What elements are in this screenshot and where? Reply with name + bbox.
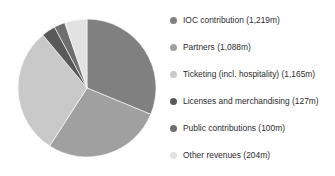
legend-item-label: Licenses and merchandising (127m) xyxy=(183,96,319,106)
legend-item-other-revenues[interactable]: Other revenues (204m) xyxy=(167,149,270,161)
pie-slice-group xyxy=(18,19,156,157)
legend-item-label: IOC contribution (1,219m) xyxy=(183,15,280,25)
legend-item-ticketing[interactable]: Ticketing (incl. hospitality) (1,165m) xyxy=(167,68,315,80)
legend-item-ioc-contribution[interactable]: IOC contribution (1,219m) xyxy=(167,14,280,26)
circle-icon xyxy=(170,44,177,51)
circle-icon xyxy=(170,17,177,24)
chart-legend: IOC contribution (1,219m) Partners (1,08… xyxy=(167,0,335,176)
circle-icon xyxy=(170,98,177,105)
pie-chart-svg xyxy=(0,0,176,176)
pie-chart-figure: IOC contribution (1,219m) Partners (1,08… xyxy=(0,0,335,176)
legend-item-partners[interactable]: Partners (1,088m) xyxy=(167,41,251,53)
legend-item-label: Ticketing (incl. hospitality) (1,165m) xyxy=(183,69,315,79)
legend-item-label: Public contributions (100m) xyxy=(183,123,285,133)
pie-chart-plot-area xyxy=(0,0,176,176)
circle-icon xyxy=(170,71,177,78)
legend-item-public-contributions[interactable]: Public contributions (100m) xyxy=(167,122,285,134)
circle-icon xyxy=(170,125,177,132)
legend-item-label: Partners (1,088m) xyxy=(183,42,251,52)
legend-item-licenses-and-merchandising[interactable]: Licenses and merchandising (127m) xyxy=(167,95,319,107)
legend-item-label: Other revenues (204m) xyxy=(183,150,270,160)
circle-icon xyxy=(170,152,177,159)
